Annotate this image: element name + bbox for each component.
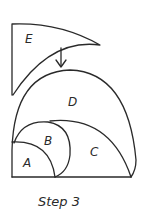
label-c: C: [90, 145, 99, 159]
step-diagram: E D C B A Step 3: [0, 0, 146, 220]
label-e: E: [25, 32, 33, 46]
label-a: A: [22, 156, 31, 170]
label-d: D: [68, 95, 77, 109]
down-arrow-icon: [56, 48, 66, 67]
caption: Step 3: [38, 194, 80, 209]
label-b: B: [44, 134, 52, 148]
